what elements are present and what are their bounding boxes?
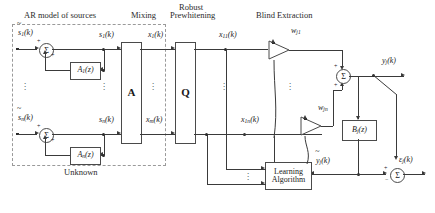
signal-label-s1: s1(k) (99, 30, 114, 39)
wire-wjn-out (321, 126, 333, 127)
wire-ytilde-to-learning (310, 174, 358, 175)
junction-a1-input (102, 69, 105, 72)
label-unknown: Unknown (64, 168, 98, 177)
wire-learning-to-wjn-curve (303, 136, 313, 164)
block-prewhitening-matrix: Q (175, 42, 196, 144)
tap-x1n-branch (205, 133, 208, 136)
mixing-matrix-label: A (128, 87, 136, 99)
wire-ytilde-to-subtractor (358, 174, 386, 175)
ellipsis-mixing-out: ... (148, 80, 158, 90)
wire-a-out-rown (140, 134, 175, 135)
wire-yj-feedback-down (396, 95, 397, 158)
ellipsis-learning-inputs: ... (243, 170, 253, 180)
summing-junction-output: Σ (336, 69, 351, 84)
wire-sum1-to-mixing (52, 49, 121, 50)
signal-label-ytilde-j: yj(k) (316, 156, 330, 165)
signal-label-epsilon-j: εj(k) (399, 155, 413, 164)
arrow-weight-wj1 (271, 39, 275, 43)
header-mixing: Mixing (131, 11, 156, 20)
error-sum-minus: − (385, 176, 388, 182)
wire-x1n-to-wjn (243, 134, 301, 135)
figure-blind-extraction-diagram: AR model of sources Mixing Robust Prewhi… (0, 0, 435, 213)
unknown-region-boundary (12, 24, 166, 166)
signal-label-yj: yj(k) (382, 56, 396, 65)
ellipsis-weights: ... (285, 80, 295, 90)
sigma-glyph-output: Σ (341, 72, 346, 81)
error-sum-plus: + (384, 165, 387, 171)
arrow-ytilde-into-subtractor (383, 171, 387, 175)
block-learning-algorithm: Learning Algorithm (265, 162, 312, 190)
wire-tap-s1-down (104, 49, 105, 70)
signal-label-x1n: x1n(k) (241, 115, 259, 124)
wire-x1n-down-to-learning (207, 134, 208, 184)
header-ar-model: AR model of sources (24, 11, 96, 20)
output-sum-plus-top: + (334, 63, 337, 69)
wire-yj-down-to-bj (358, 76, 359, 119)
arrow-an-into-sumn (43, 135, 47, 139)
signal-label-sn: sn(k) (99, 115, 114, 124)
wire-a1-out-left (45, 70, 70, 71)
arrow-x1n-into-learning (261, 181, 265, 185)
prewhitening-matrix-label: Q (181, 87, 190, 99)
sigma-glyph-error: Σ (395, 171, 400, 180)
sum1-plus-right: + (51, 52, 54, 58)
wire-bj-out-down (358, 139, 359, 174)
summing-junction-error: Σ (390, 168, 405, 183)
ellipsis-sources-left: ... (20, 80, 30, 90)
learning-algorithm-line2: Algorithm (272, 176, 305, 184)
wire-wjn-to-sum-h (333, 90, 342, 91)
signal-label-wjn: wjn (318, 103, 328, 112)
arrow-yj-into-subtractor (394, 156, 398, 160)
block-mixing-matrix: A (121, 42, 142, 144)
ellipsis-sources-right: ... (99, 80, 109, 90)
wire-learning-to-wj1-v (274, 136, 275, 162)
signal-label-s-tilde-1: s1(k) (18, 28, 33, 37)
arrow-a1-into-sum1 (43, 50, 47, 54)
wire-sumn-to-mixing (52, 134, 121, 135)
wire-wj1-to-sum (289, 50, 343, 51)
ellipsis-prewhitening-out: ... (219, 80, 229, 90)
header-blind-extraction: Blind Extraction (256, 11, 312, 20)
wire-yj-diagonal-to-feedback (372, 74, 398, 96)
wire-a-out-row1 (140, 49, 175, 50)
wire-an-out-left (45, 155, 70, 156)
block-ar-filter-1: A1(z) (70, 62, 101, 80)
arrow-x11-into-learning (261, 166, 265, 170)
arrow-error-output (422, 171, 426, 175)
signal-label-x11: x11(k) (219, 30, 237, 39)
header-prewhitening-line2: Prewhitening (170, 11, 215, 20)
wire-tap-sn-down (104, 134, 105, 155)
block-ar-filter-n: An(z) (70, 147, 101, 165)
signal-label-s-tilde-n: sn(k) (18, 113, 33, 122)
wire-x11-down-to-learning (226, 49, 227, 169)
signal-label-wj1: wj1 (291, 26, 301, 35)
signal-label-xm: xm(k) (146, 115, 163, 124)
wire-x1n-to-learning-h (207, 184, 266, 185)
wire-learning-to-wj1-curve (272, 60, 280, 138)
signal-label-x1: x1(k) (148, 30, 163, 39)
sumn-plus-right: + (51, 137, 54, 143)
wire-an-feedback-up (45, 137, 46, 155)
wire-a1-feedback-up (45, 52, 46, 70)
wire-wjn-up (333, 90, 334, 126)
arrow-output-yj (401, 73, 405, 77)
block-filter-bj: Bj(z) (342, 120, 377, 141)
wire-q-out-row1 (194, 49, 268, 50)
sumn-plus-top: + (37, 123, 40, 129)
output-sum-plus-bottom: + (334, 82, 337, 88)
arrow-weight-wjn (303, 115, 307, 119)
junction-an-input (102, 154, 105, 157)
sum1-plus-top: + (37, 38, 40, 44)
